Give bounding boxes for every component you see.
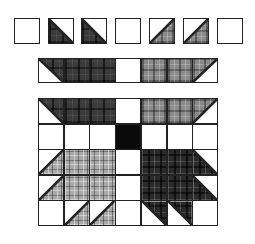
block-cell (89, 149, 115, 175)
block-cell (64, 200, 90, 226)
block-cell (89, 98, 115, 124)
block-cell (64, 124, 90, 150)
strip-cell (167, 58, 193, 83)
hst-diagonal-seam (82, 19, 106, 43)
block-cell (89, 175, 115, 201)
hst-diagonal-seam (39, 59, 63, 82)
block-cell (38, 98, 64, 124)
block-cell (115, 124, 141, 150)
hst-diagonal-seam (193, 59, 217, 82)
hst-diagonal-seam (39, 99, 63, 123)
block-cell (89, 200, 115, 226)
block-cell (38, 175, 64, 201)
block-cell (167, 149, 193, 175)
strip-cell (89, 58, 115, 83)
hst-diagonal-seam (39, 150, 63, 174)
strip-cell (192, 58, 218, 83)
hst-diagonal-seam (150, 19, 174, 43)
block-cell (64, 98, 90, 124)
block-cell (38, 200, 64, 226)
hst-diagonal-seam (65, 201, 89, 225)
hst-diagonal-seam (193, 99, 217, 123)
block-cell (115, 200, 141, 226)
block-cell (167, 98, 193, 124)
block-cell (115, 98, 141, 124)
block-cell (141, 149, 167, 175)
plain-square-unit (14, 18, 40, 44)
block-cell (89, 124, 115, 150)
block-cell (38, 149, 64, 175)
hst-diagonal-seam (168, 201, 192, 225)
plain-square-unit (217, 18, 243, 44)
block-cell (141, 175, 167, 201)
block-cell (115, 175, 141, 201)
half-square-triangle-unit (48, 18, 74, 44)
block-cell (64, 175, 90, 201)
block-cell (192, 124, 218, 150)
hst-diagonal-seam (184, 19, 208, 43)
block-cell (192, 200, 218, 226)
block-cell (64, 149, 90, 175)
strip-cell (115, 58, 141, 83)
hst-diagonal-seam (49, 19, 73, 43)
hst-diagonal-seam (193, 176, 217, 200)
strip-cell (38, 58, 64, 83)
hst-diagonal-seam (39, 176, 63, 200)
block-cell (141, 200, 167, 226)
hst-diagonal-seam (90, 201, 114, 225)
hst-diagonal-seam (193, 150, 217, 174)
half-square-triangle-unit (149, 18, 175, 44)
block-cell (141, 98, 167, 124)
strip-cell (64, 58, 90, 83)
block-cell (115, 149, 141, 175)
block-cell (192, 98, 218, 124)
block-cell (167, 175, 193, 201)
hst-diagonal-seam (142, 201, 166, 225)
block-cell (192, 175, 218, 201)
plain-square-unit (115, 18, 141, 44)
block-cell (167, 200, 193, 226)
strip-cell (141, 58, 167, 83)
half-square-triangle-unit (183, 18, 209, 44)
block-cell (192, 149, 218, 175)
block-cell (167, 124, 193, 150)
block-cell (38, 124, 64, 150)
half-square-triangle-unit (81, 18, 107, 44)
block-cell (141, 124, 167, 150)
